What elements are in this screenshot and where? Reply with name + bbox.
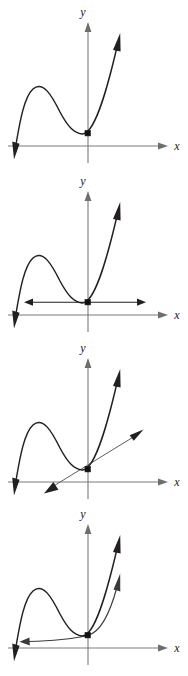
x-axis-label: x (173, 308, 180, 322)
x-axis-label: x (173, 641, 180, 655)
tangent-curve-left-arrowhead-icon (20, 637, 30, 645)
tangent-curve-panel-4 (20, 574, 121, 646)
y-axis-arrowhead-icon (85, 191, 92, 201)
y-axis-group-panel-2 (85, 191, 92, 332)
x-axis-label: x (173, 475, 180, 489)
panel-2-cubic-with-horizontal-secant: y x (0, 169, 188, 334)
panel-4-cubic-with-tangent-curve: y x (0, 505, 188, 676)
curve-left-arrowhead-icon (12, 142, 19, 160)
curve-right-arrowhead-icon (113, 369, 121, 388)
panel-1-cubic-curve-only: y x (0, 0, 188, 165)
curve-left-arrowhead-icon (12, 478, 19, 496)
tangent-curve-right-arrowhead-icon (114, 574, 121, 592)
cubic-curve-panel-1 (12, 33, 120, 160)
x-axis-arrowhead-icon (158, 479, 168, 486)
slanted-secant-line-panel-3 (44, 430, 144, 494)
y-axis-group-panel-1 (85, 22, 92, 163)
curve-right-arrowhead-icon (113, 33, 121, 52)
y-axis-label: y (79, 507, 86, 521)
marked-point (85, 300, 90, 305)
x-axis-arrowhead-icon (158, 645, 168, 652)
marked-point (85, 633, 90, 638)
curve-left-arrowhead-icon (12, 644, 19, 662)
y-axis-label: y (79, 5, 86, 19)
y-axis-group-panel-3 (85, 358, 92, 499)
curve-right-arrowhead-icon (113, 202, 121, 221)
secant-right-arrowhead-icon (137, 299, 146, 306)
y-axis-arrowhead-icon (85, 358, 92, 368)
y-axis-group-panel-4 (85, 524, 92, 665)
y-axis-arrowhead-icon (85, 524, 92, 534)
math-figure-four-panel-graphs: y x y (0, 0, 188, 676)
marked-point (85, 131, 90, 136)
x-axis-arrowhead-icon (158, 312, 168, 319)
cubic-curve-panel-3 (12, 369, 120, 496)
secant-left-arrowhead-icon (24, 299, 33, 306)
secant-upper-right-arrowhead-icon (130, 430, 144, 441)
y-axis-label: y (79, 174, 86, 188)
secant-line (52, 436, 135, 487)
curve-right-arrowhead-icon (113, 535, 121, 554)
curve-left-arrowhead-icon (12, 311, 19, 329)
x-axis-arrowhead-icon (158, 143, 168, 150)
y-axis-arrowhead-icon (85, 22, 92, 32)
marked-point (85, 467, 90, 472)
secant-lower-left-arrowhead-icon (44, 482, 58, 494)
y-axis-label: y (79, 341, 86, 355)
cubic-curve-panel-2 (12, 202, 120, 329)
panel-3-cubic-with-slanted-secant: y x (0, 336, 188, 501)
x-axis-label: x (173, 139, 180, 153)
